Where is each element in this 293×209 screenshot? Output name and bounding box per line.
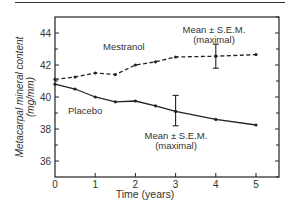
x-tick-label: 1 [92,179,98,190]
y-tick-label: 44 [40,28,52,39]
y-axis-ticks: 3638404244 [40,17,279,177]
y-axis-label: Metacarpal mineral content (mg/mm) [14,35,36,157]
placebo-point [134,99,137,102]
placebo-point [214,118,217,121]
x-tick-label: 4 [213,179,219,190]
x-axis-label: Time (years) [116,188,175,200]
x-tick-label: 0 [52,179,58,190]
plot-frame [55,17,279,177]
mestranol-point [254,53,257,56]
placebo-point [114,100,117,103]
placebo-label: Placebo [68,105,102,116]
y-axis-label-line2: (mg/mm) [25,77,36,117]
y-tick-label: 40 [40,92,52,103]
mestranol-point [94,71,97,74]
y-axis-label-line1: Metacarpal mineral content [14,35,25,157]
placebo-point [74,87,77,90]
y-tick-label: 38 [40,124,52,135]
mestranol-point [114,73,117,76]
mestranol-point [174,55,177,58]
x-tick-label: 5 [253,179,259,190]
mestranol-point [154,60,157,63]
mestranol-sem-annotation-line2: (maximal) [193,34,235,45]
mestranol-line [55,55,256,80]
placebo-point [254,123,257,126]
y-tick-label: 36 [40,156,52,167]
placebo-sem-annotation-line2: (maximal) [155,140,197,151]
mestranol-label: Mestranol [103,41,145,52]
mestranol-point [134,63,137,66]
chart: 3638404244 012345 Mestranol Placebo Mean… [0,0,293,209]
placebo-point [154,104,157,107]
y-tick-label: 42 [40,60,52,71]
placebo-point [53,83,56,86]
placebo-point [94,95,97,98]
mestranol-point [74,75,77,78]
mestranol-point [53,78,56,81]
